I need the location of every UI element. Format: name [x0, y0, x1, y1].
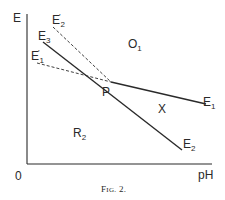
- label-e2-prime: E′2: [52, 14, 65, 26]
- line-e3-e2: [43, 42, 182, 150]
- point-p-label: P: [102, 86, 110, 98]
- line-e2-prime: [53, 27, 111, 82]
- origin-label: 0: [15, 170, 22, 182]
- label-e3: E3: [38, 30, 50, 42]
- label-e2: E2: [183, 138, 195, 150]
- region-r2-label: R2: [73, 127, 86, 139]
- line-e1: [111, 82, 206, 104]
- label-e1: E1: [203, 96, 215, 108]
- region-x-label: X: [158, 103, 166, 115]
- x-axis-label: pH: [198, 169, 213, 181]
- region-o1-label: O1: [128, 38, 142, 50]
- diagram-canvas: [0, 0, 225, 200]
- figure-caption: FIG. 2.: [101, 184, 126, 194]
- label-e1-prime: E′1: [31, 50, 44, 62]
- y-axis-label: E: [13, 12, 21, 24]
